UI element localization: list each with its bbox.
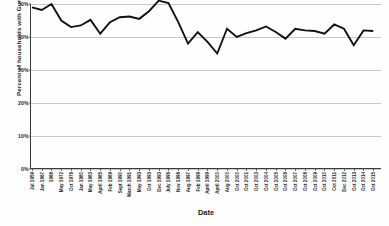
x-tick-mark (139, 169, 140, 171)
x-tick-mark (159, 169, 160, 171)
x-tick-mark (81, 169, 82, 171)
x-tick-mark (354, 169, 355, 171)
y-tick-label: 10% (18, 133, 28, 139)
x-tick-mark (344, 169, 345, 171)
x-tick-label: Oct 2013 (351, 172, 356, 191)
x-tick-label: May 1972 (59, 172, 64, 192)
x-tick-label: July 1996 (166, 172, 171, 193)
x-tick-label: Oct 2001 (244, 172, 249, 191)
x-tick-label: April 1985 (98, 172, 103, 194)
x-tick-label: April 2000 (215, 172, 220, 194)
data-series-line (31, 4, 381, 169)
x-tick-label: Oct 2006 (283, 172, 288, 191)
y-tick-label: 30% (18, 67, 28, 73)
x-tick-label: Dec 2012 (341, 172, 346, 192)
y-tick-label: 40% (18, 34, 28, 40)
x-tick-label: Oct 2003 (254, 172, 259, 191)
x-tick-label: Oct 2011 (332, 172, 337, 191)
x-tick-label: Oct 1976 (68, 172, 73, 191)
x-tick-mark (256, 169, 257, 171)
x-tick-label: Aug 1997 (185, 172, 190, 192)
x-tick-label: Dec 1993 (156, 172, 161, 192)
x-tick-label: Aug 2000 (224, 172, 229, 192)
x-axis-title: Date (30, 208, 382, 217)
x-tick-mark (61, 169, 62, 171)
x-tick-label: Oct 2014 (361, 172, 366, 191)
x-tick-label: Sept 1990 (117, 172, 122, 193)
plot-area: 0%10%20%30%40%50% (31, 4, 381, 169)
x-tick-mark (246, 169, 247, 171)
x-tick-label: Feb 1999 (195, 172, 200, 192)
x-tick-label: Oct 2010 (322, 172, 327, 191)
x-tick-label: Oct 2005 (273, 172, 278, 191)
y-axis-title: Percent of households with Guns (15, 0, 22, 116)
x-tick-mark (207, 169, 208, 171)
x-tick-mark (90, 169, 91, 171)
x-tick-group: Jul 1959Jan 19671968May 1972Oct 1976Jan … (31, 169, 381, 209)
x-tick-label: Jan 1967 (39, 172, 44, 191)
gun-ownership-line-chart: Percent of households with Guns 0%10%20%… (0, 0, 389, 226)
y-tick-label: 50% (18, 1, 28, 7)
x-tick-label: Oct 2009 (312, 172, 317, 191)
x-tick-label: Oct 2000 (234, 172, 239, 191)
x-tick-mark (363, 169, 364, 171)
x-tick-mark (324, 169, 325, 171)
x-tick-mark (237, 169, 238, 171)
x-tick-mark (188, 169, 189, 171)
x-tick-mark (285, 169, 286, 171)
y-tick-label: 0% (21, 166, 29, 172)
y-tick-label: 20% (18, 100, 28, 106)
x-tick-label: Nov 1996 (176, 172, 181, 192)
x-tick-label: May 1983 (88, 172, 93, 192)
x-tick-mark (295, 169, 296, 171)
x-tick-label: Oct 1993 (146, 172, 151, 191)
x-tick-label: 1968 (49, 172, 54, 182)
x-tick-mark (178, 169, 179, 171)
x-tick-mark (266, 169, 267, 171)
x-tick-mark (276, 169, 277, 171)
x-tick-label: Oct 2008 (302, 172, 307, 191)
x-tick-mark (71, 169, 72, 171)
x-tick-mark (227, 169, 228, 171)
x-tick-label: Jan 1980 (78, 172, 83, 191)
x-tick-mark (100, 169, 101, 171)
x-tick-mark (373, 169, 374, 171)
x-tick-mark (42, 169, 43, 171)
x-tick-mark (51, 169, 52, 171)
x-tick-label: April 1999 (205, 172, 210, 194)
x-tick-mark (149, 169, 150, 171)
x-tick-mark (217, 169, 218, 171)
x-tick-mark (32, 169, 33, 171)
x-tick-label: May 1993 (137, 172, 142, 192)
x-tick-label: Oct 2004 (263, 172, 268, 191)
x-tick-mark (129, 169, 130, 171)
x-tick-label: Oct 2007 (293, 172, 298, 191)
x-tick-mark (305, 169, 306, 171)
x-tick-label: March 1991 (127, 172, 132, 197)
x-tick-label: Feb 1989 (107, 172, 112, 192)
x-tick-mark (334, 169, 335, 171)
x-tick-label: Jul 1959 (30, 172, 35, 190)
x-tick-label: Oct 2015 (371, 172, 376, 191)
x-tick-mark (120, 169, 121, 171)
x-tick-mark (315, 169, 316, 171)
